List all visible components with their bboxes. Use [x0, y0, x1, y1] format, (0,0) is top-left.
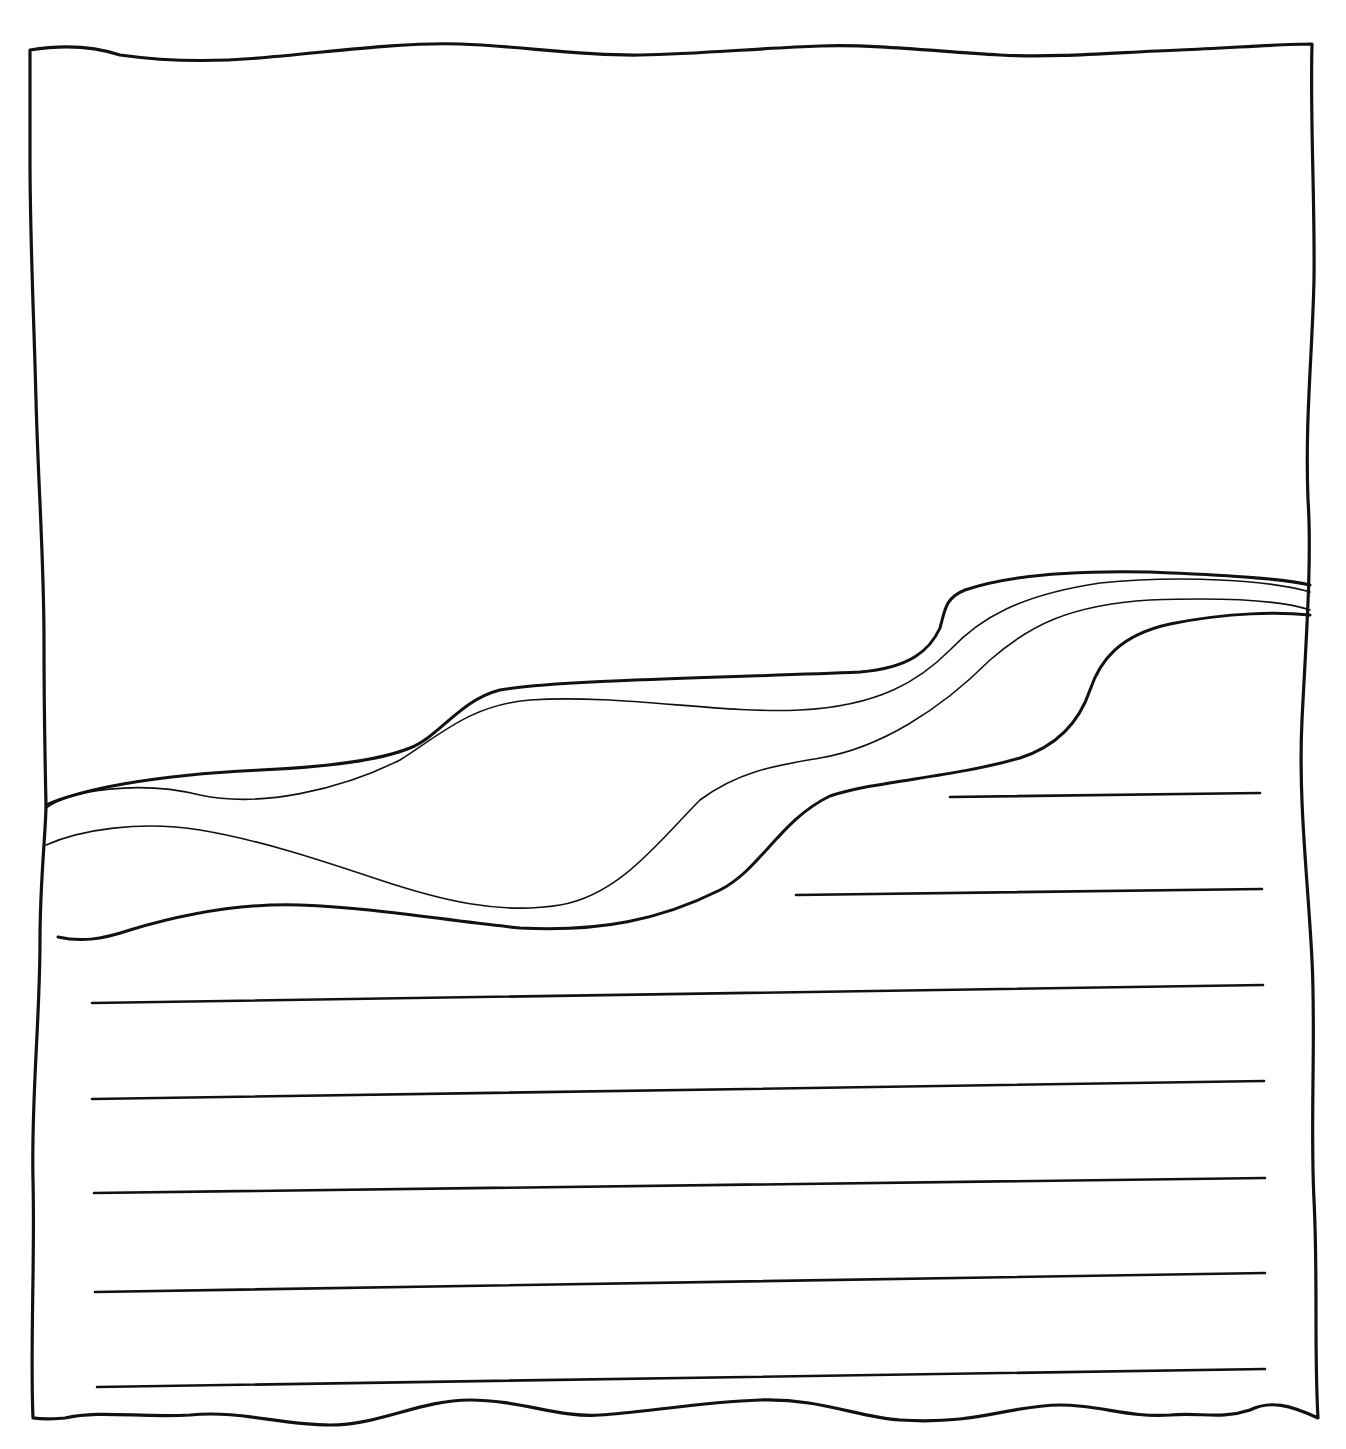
- page-frame: [30, 44, 1318, 1425]
- writing-line: [796, 889, 1262, 895]
- band-inner-top: [46, 579, 1310, 808]
- writing-line: [950, 793, 1260, 797]
- worksheet-drawing: [0, 0, 1346, 1449]
- writing-line: [92, 985, 1263, 1003]
- writing-line: [95, 1273, 1265, 1292]
- writing-line: [94, 1178, 1265, 1193]
- writing-line: [92, 1081, 1264, 1099]
- writing-line: [97, 1369, 1265, 1387]
- band-top-boundary: [46, 572, 1310, 805]
